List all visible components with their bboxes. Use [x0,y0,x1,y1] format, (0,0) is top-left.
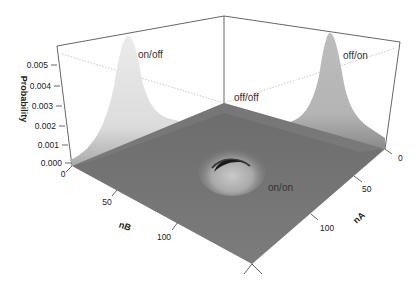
z-axis-label: Probability [19,76,29,123]
nB-axis-label: nB [118,219,133,233]
z-tick: 0.004 [30,81,52,91]
z-tick: 0.005 [27,60,49,70]
label-off-off: off/off [234,92,259,103]
z-tick: 0.002 [35,121,57,131]
label-on-off: on/off [138,49,163,60]
label-off-on: off/on [343,50,368,61]
z-tick: 0.000 [41,158,63,168]
nB-tick: 50 [102,197,112,207]
nA-tick: 100 [320,223,334,233]
z-tick: 0.003 [32,101,54,111]
nA-tick: 50 [362,184,372,194]
probability-surface-chart: 0.005 0.004 0.003 0.002 0.001 0.000 Prob… [0,0,416,288]
nA-axis-label: nA [351,210,367,226]
nB-tick: 0 [61,169,66,179]
nA-tick: 0 [398,153,403,163]
nB-tick: 100 [157,232,171,242]
mound-on-on [198,144,266,196]
z-tick: 0.001 [38,140,60,150]
label-on-on: on/on [268,182,293,193]
chart-svg: 0.005 0.004 0.003 0.002 0.001 0.000 Prob… [0,0,416,288]
z-tick-labels: 0.005 0.004 0.003 0.002 0.001 0.000 [27,60,63,168]
